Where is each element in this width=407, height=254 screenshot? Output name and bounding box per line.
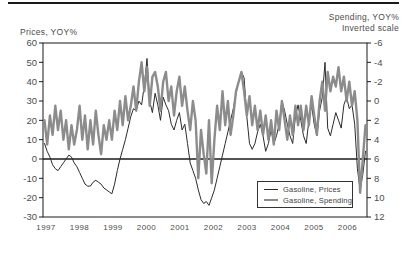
left-tick-label: -30 xyxy=(23,211,37,222)
x-axis-year-label: 1997 xyxy=(36,223,56,232)
left-tick-label: 0 xyxy=(32,153,37,164)
right-tick-label: 2 xyxy=(374,115,379,126)
right-tick-label: 4 xyxy=(374,134,379,145)
x-axis-year-label: 2005 xyxy=(304,223,324,232)
legend-label-spending: Gasoline, Spending xyxy=(283,196,352,205)
spending-line xyxy=(45,62,366,193)
right-tick-label: -6 xyxy=(374,37,382,48)
x-axis-year-label: 2001 xyxy=(170,223,190,232)
left-tick-label: 30 xyxy=(26,95,37,106)
left-tick-label: 20 xyxy=(26,115,37,126)
x-axis-year-label: 2006 xyxy=(338,223,358,232)
left-tick-label: -10 xyxy=(23,173,37,184)
chart-figure: Prices, YOY% Spending, YOY% Inverted sca… xyxy=(0,0,407,254)
right-tick-label: 0 xyxy=(374,95,379,106)
x-axis-year-label: 1998 xyxy=(70,223,90,232)
x-axis-year-label: 2004 xyxy=(271,223,291,232)
right-tick-label: 10 xyxy=(374,192,385,203)
chart-canvas: 6050403020100-10-20-30-6-4-2024681012199… xyxy=(0,0,407,254)
x-axis-year-label: 1999 xyxy=(103,223,123,232)
left-tick-label: 10 xyxy=(26,134,37,145)
x-axis-year-label: 2000 xyxy=(137,223,157,232)
right-tick-label: 8 xyxy=(374,173,379,184)
legend-box: Gasoline, Prices Gasoline, Spending xyxy=(257,181,353,208)
x-axis-year-label: 2003 xyxy=(237,223,257,232)
right-tick-label: -4 xyxy=(374,57,382,68)
left-tick-label: -20 xyxy=(23,192,37,203)
legend-item-prices: Gasoline, Prices xyxy=(264,185,352,194)
legend-item-spending: Gasoline, Spending xyxy=(264,196,352,205)
left-tick-label: 50 xyxy=(26,57,37,68)
spending-line-swatch xyxy=(264,199,278,201)
left-tick-label: 60 xyxy=(26,37,37,48)
right-tick-label: 6 xyxy=(374,153,379,164)
left-tick-label: 40 xyxy=(26,76,37,87)
right-tick-label: 12 xyxy=(374,211,385,222)
right-tick-label: -2 xyxy=(374,76,382,87)
prices-line-swatch xyxy=(264,189,278,190)
legend-label-prices: Gasoline, Prices xyxy=(283,185,341,194)
x-axis-year-label: 2002 xyxy=(204,223,224,232)
